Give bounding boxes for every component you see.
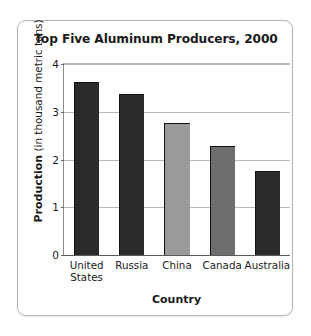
x-axis-label: Country [63, 293, 290, 306]
x-axis-tick-label-line: United [70, 260, 104, 272]
x-axis-tick-label: Canada [203, 260, 242, 272]
chart-title: Top Five Aluminum Producers, 2000 [18, 32, 294, 46]
y-axis-label: Production (in thousand metric tons) [32, 23, 45, 223]
x-axis-tick-label: Australia [245, 260, 291, 272]
plot-area: 01234 UnitedStatesRussiaChinaCanadaAustr… [63, 63, 290, 256]
bar-slot [109, 64, 154, 255]
y-axis-tick-mark [61, 255, 64, 256]
bar-china[interactable] [164, 123, 189, 255]
x-axis-tick-label: China [162, 260, 191, 272]
bar-slot [154, 64, 199, 255]
bars-layer [64, 64, 290, 255]
x-axis-tick-label-line: Russia [115, 260, 148, 272]
bar-slot [200, 64, 245, 255]
bar-canada[interactable] [210, 146, 235, 255]
y-axis-tick-label: 0 [52, 249, 59, 261]
x-axis-tick-label: UnitedStates [70, 260, 104, 283]
x-axis-tick-label-line: China [162, 260, 191, 272]
bar-slot [245, 64, 290, 255]
x-axis-tick-label-line: States [70, 272, 104, 284]
bar-russia[interactable] [119, 94, 144, 255]
y-axis-tick-label: 4 [52, 58, 59, 70]
x-axis-tick-label-line: Australia [245, 260, 291, 272]
y-axis-label-rest: (in thousand metric tons) [32, 20, 44, 155]
bar-slot [64, 64, 109, 255]
y-axis-tick-label: 1 [52, 201, 59, 213]
bar-australia[interactable] [255, 171, 280, 255]
bar-united-states[interactable] [74, 82, 99, 255]
y-axis-tick-label: 3 [52, 106, 59, 118]
y-axis-label-strong: Production [32, 155, 45, 223]
x-axis-tick-label: Russia [115, 260, 148, 272]
y-axis-tick-label: 2 [52, 154, 59, 166]
x-axis-tick-label-line: Canada [203, 260, 242, 272]
chart-figure-frame: Top Five Aluminum Producers, 2000 Produc… [17, 20, 293, 316]
